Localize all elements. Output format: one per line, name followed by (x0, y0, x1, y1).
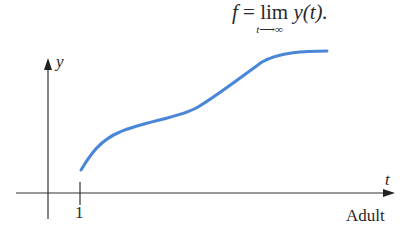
formula-subscript: t⟶∞ (256, 23, 283, 36)
x-axis-arrow-icon (383, 189, 395, 197)
limit-formula: f = lim t⟶∞ y(t). (232, 0, 328, 25)
formula-equals: = (243, 0, 255, 24)
formula-lim: lim (260, 0, 288, 24)
y-axis-arrow-icon (44, 58, 52, 70)
formula-rhs: y(t). (293, 0, 327, 24)
x-axis-label: t (385, 170, 390, 190)
growth-curve (81, 51, 327, 170)
adult-caption: Adult (346, 206, 385, 226)
tick-label: 1 (75, 203, 84, 223)
formula-limit: lim t⟶∞ (260, 0, 288, 25)
y-axis-label: y (56, 52, 64, 72)
growth-diagram (0, 0, 406, 239)
formula-lhs: f (232, 0, 238, 24)
